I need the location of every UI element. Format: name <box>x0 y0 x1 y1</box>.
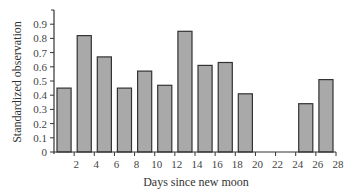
bars <box>57 31 333 152</box>
x-axis-title: Days since new moon <box>143 175 249 189</box>
x-tick-label: 4 <box>94 158 100 170</box>
bar <box>178 31 192 152</box>
x-tick-label: 12 <box>171 158 182 170</box>
x-tick-label: 22 <box>272 158 283 170</box>
bar <box>218 63 232 153</box>
x-tick-label: 14 <box>192 158 204 170</box>
x-axis-ticks: 246810121416182022242628 <box>73 152 344 170</box>
bar <box>138 71 152 152</box>
y-tick-label: 0.1 <box>33 132 47 144</box>
axes <box>54 10 336 154</box>
y-tick-label: 0 <box>42 146 48 158</box>
x-tick-label: 26 <box>312 158 324 170</box>
y-tick-label: 0.9 <box>33 18 47 30</box>
y-axis-title: Standardized observation <box>10 21 24 143</box>
x-tick-label: 24 <box>292 158 304 170</box>
bar <box>158 85 172 152</box>
bar <box>77 36 91 152</box>
y-tick-label: 0.8 <box>33 32 47 44</box>
bar <box>238 94 252 152</box>
x-tick-label: 6 <box>114 158 120 170</box>
bar <box>198 65 212 152</box>
x-tick-label: 18 <box>232 158 244 170</box>
bar-chart: 00.10.20.30.40.50.60.70.80.9 24681012141… <box>0 0 356 195</box>
y-tick-label: 0.3 <box>33 103 47 115</box>
bar <box>319 80 333 152</box>
bar <box>299 104 313 152</box>
bar <box>97 57 111 152</box>
y-tick-label: 0.5 <box>33 75 47 87</box>
x-tick-label: 20 <box>252 158 264 170</box>
y-tick-label: 0.7 <box>33 47 47 59</box>
y-tick-label: 0.2 <box>33 118 47 130</box>
x-tick-label: 2 <box>73 158 79 170</box>
bar <box>57 88 71 152</box>
y-axis-ticks: 00.10.20.30.40.50.60.70.80.9 <box>33 10 54 158</box>
x-tick-label: 8 <box>134 158 140 170</box>
y-tick-label: 0.6 <box>33 61 47 73</box>
bar <box>117 88 131 152</box>
y-tick-label: 0.4 <box>33 89 47 101</box>
x-tick-label: 10 <box>151 158 163 170</box>
x-tick-label: 28 <box>333 158 345 170</box>
x-tick-label: 16 <box>212 158 224 170</box>
